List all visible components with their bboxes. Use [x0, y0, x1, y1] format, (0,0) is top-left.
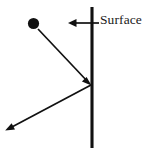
reflection-diagram: Surface — [0, 0, 151, 153]
surface-label: Surface — [100, 12, 142, 27]
diagram-canvas: Surface — [0, 0, 151, 153]
particle-dot — [28, 18, 39, 29]
